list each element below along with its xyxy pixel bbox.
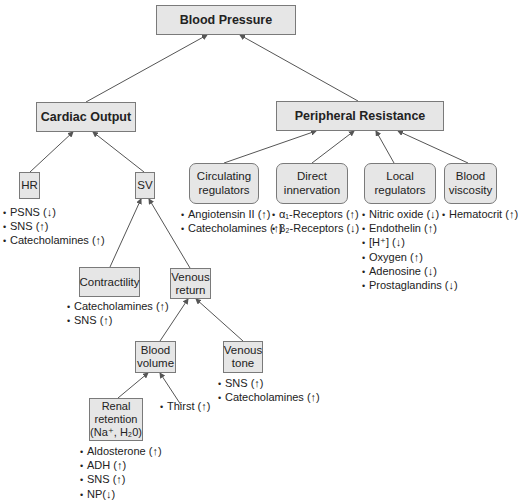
node-circulating-regulators: Circulating regulators	[189, 163, 259, 204]
node-sv: SV	[135, 172, 155, 199]
node-peripheral-resistance-label: Peripheral Resistance	[295, 110, 426, 123]
list-item: α₁-Receptors (↑)	[272, 208, 359, 222]
list-item: Catecholamines (↑)	[3, 234, 105, 248]
contractility-factors-list: Catecholamines (↑) SNS (↑)	[67, 300, 169, 328]
blood-viscosity-factors-list: Hematocrit (↑)	[442, 208, 518, 222]
direct-innervation-factors-list: α₁-Receptors (↑) β₂-Receptors (↓)	[272, 208, 359, 236]
node-venous-tone: Venous tone	[223, 341, 263, 373]
list-item: SNS (↑)	[3, 220, 105, 234]
node-circulating-regulators-label: Circulating regulators	[197, 170, 251, 197]
venous-tone-factors-list: SNS (↑) Catecholamines (↑)	[218, 377, 320, 405]
circulating-regulators-factors-list: Angiotensin II (↑) Catecholamines (↑)	[181, 208, 283, 236]
list-item: ADH (↑)	[80, 459, 162, 473]
node-blood-pressure: Blood Pressure	[156, 5, 296, 35]
thirst-factor: Thirst (↑)	[160, 400, 210, 414]
node-hr: HR	[19, 172, 40, 199]
list-item: [H⁺] (↓)	[362, 236, 458, 250]
list-item: Oxygen (↑)	[362, 251, 458, 265]
node-contractility: Contractility	[79, 267, 140, 297]
list-item: Hematocrit (↑)	[442, 208, 518, 222]
list-item: SNS (↑)	[218, 377, 320, 391]
node-blood-volume-label: Blood volume	[137, 344, 174, 370]
node-venous-return-label: Venous return	[171, 271, 209, 297]
node-local-regulators: Local regulators	[364, 163, 436, 204]
list-item: Adenosine (↓)	[362, 265, 458, 279]
node-cardiac-output: Cardiac Output	[36, 102, 136, 132]
list-item: Aldosterone (↑)	[80, 445, 162, 459]
list-item: Endothelin (↑)	[362, 222, 458, 236]
node-blood-volume: Blood volume	[135, 341, 176, 373]
list-item: β₂-Receptors (↓)	[272, 222, 359, 236]
list-item: Catecholamines (↑)	[218, 391, 320, 405]
node-peripheral-resistance: Peripheral Resistance	[276, 101, 444, 131]
node-venous-return: Venous return	[170, 268, 211, 299]
list-item: Angiotensin II (↑)	[181, 208, 283, 222]
node-blood-pressure-label: Blood Pressure	[180, 14, 272, 27]
node-cardiac-output-label: Cardiac Output	[41, 111, 131, 124]
renal-retention-factors-list: Aldosterone (↑) ADH (↑) SNS (↑) NP(↓)	[80, 445, 162, 501]
node-sv-label: SV	[137, 179, 152, 192]
node-venous-tone-label: Venous tone	[224, 344, 262, 370]
node-local-regulators-label: Local regulators	[374, 170, 425, 197]
list-item: NP(↓)	[80, 488, 162, 501]
node-direct-innervation-label: Direct innervation	[284, 170, 340, 197]
node-hr-label: HR	[21, 179, 38, 192]
node-blood-viscosity-label: Blood viscosity	[449, 170, 492, 197]
node-direct-innervation: Direct innervation	[276, 163, 348, 204]
node-renal-retention: Renal retention (Na⁺, H₂0)	[89, 398, 143, 441]
node-renal-retention-label: Renal retention (Na⁺, H₂0)	[90, 400, 142, 439]
list-item: Catecholamines (↑)	[67, 300, 169, 314]
node-blood-viscosity: Blood viscosity	[444, 163, 497, 204]
list-item: SNS (↑)	[80, 473, 162, 487]
hr-factors-list: PSNS (↓) SNS (↑) Catecholamines (↑)	[3, 206, 105, 249]
list-item: PSNS (↓)	[3, 206, 105, 220]
list-item: Catecholamines (↑)	[181, 222, 283, 236]
node-contractility-label: Contractility	[79, 276, 139, 289]
list-item: SNS (↑)	[67, 314, 169, 328]
list-item: Prostaglandins (↓)	[362, 279, 458, 293]
